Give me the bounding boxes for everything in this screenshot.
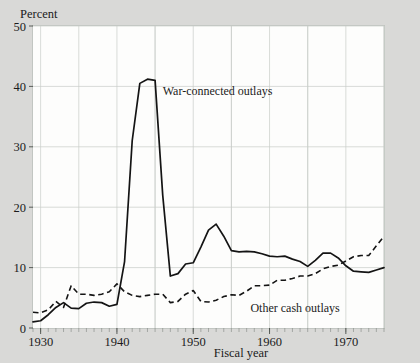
x-axis-tick-label: 1940: [104, 335, 129, 349]
line-chart: 01020304050 19301940195019601970 War-con…: [0, 0, 420, 363]
chart-figure: 01020304050 19301940195019601970 War-con…: [0, 0, 420, 363]
x-axis-tick-label: 1970: [333, 335, 358, 349]
x-axis-tick-label: 1950: [181, 335, 206, 349]
y-axis-tick-label: 40: [14, 80, 27, 94]
x-axis-title: Fiscal year: [214, 346, 269, 360]
y-axis-tick-label: 10: [14, 261, 27, 275]
plot-area-frame: [33, 26, 385, 329]
series-annotation-label: Other cash outlays: [250, 301, 340, 315]
x-axis-tick-label: 1930: [28, 335, 53, 349]
series-annotation-label: War-connected outlays: [163, 84, 273, 98]
y-axis-tick-label: 0: [20, 322, 26, 336]
y-axis-unit-label: Percent: [20, 7, 58, 21]
y-axis-tick-label: 20: [14, 201, 27, 215]
y-axis-tick-label: 30: [14, 140, 27, 154]
y-axis-tick-label: 50: [14, 20, 27, 34]
